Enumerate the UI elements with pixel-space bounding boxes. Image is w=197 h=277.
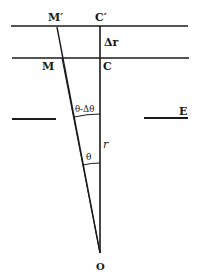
- line-m-o: [62, 58, 100, 253]
- label-theta: θ: [86, 152, 91, 162]
- angle-arc-theta: [83, 163, 100, 165]
- geometry-diagram: M′ C′ Δr M C θ-Δθ E r θ O: [0, 0, 197, 277]
- label-c: C: [103, 60, 112, 73]
- label-c-prime: C′: [95, 11, 107, 24]
- label-e: E: [179, 105, 187, 118]
- label-r: r: [103, 138, 109, 151]
- label-theta-minus-delta-theta: θ-Δθ: [75, 104, 94, 114]
- label-o: O: [96, 261, 105, 272]
- label-delta-r: Δr: [104, 36, 119, 49]
- label-m: M: [42, 60, 54, 73]
- label-m-prime: M′: [48, 11, 63, 24]
- angle-arc-theta-minus-delta-theta: [74, 114, 100, 117]
